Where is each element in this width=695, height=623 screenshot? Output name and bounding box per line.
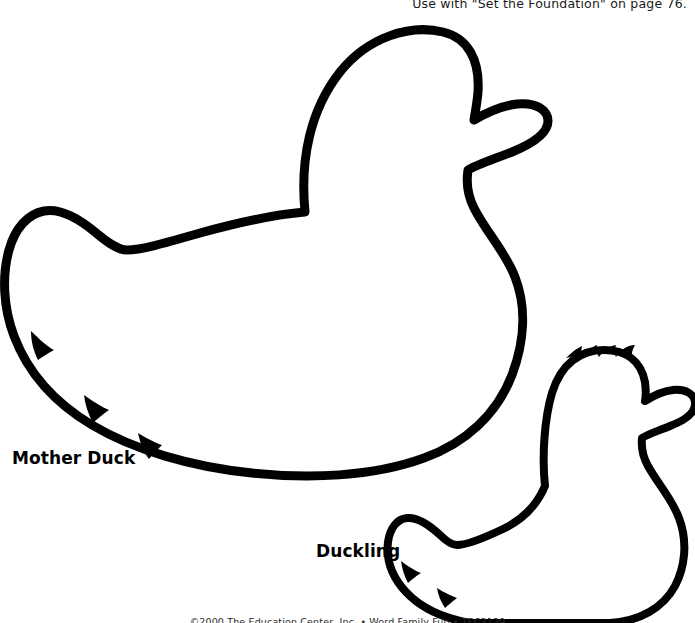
duck-artwork: [0, 0, 695, 623]
duckling-label: Duckling: [316, 541, 400, 561]
mother-duck-label: Mother Duck: [12, 448, 135, 468]
mother-duck-shape[interactable]: [5, 30, 548, 476]
mother-duck-outline: [5, 30, 548, 476]
pattern-page: Use with "Set the Foundation" on page 76…: [0, 0, 695, 623]
copyright-notice: ©2000 The Education Center, Inc. • Word …: [0, 616, 695, 623]
